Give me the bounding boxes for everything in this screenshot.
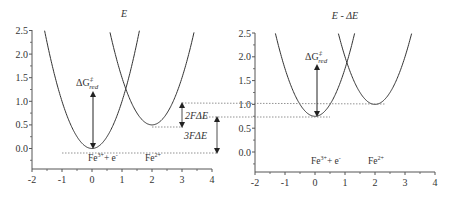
y-tick-label: 2.5 [239, 28, 252, 39]
y-tick-label: 1.5 [16, 72, 29, 83]
species-labels: Fe3++ e-Fe2+ [311, 155, 385, 166]
panel-e: E 0.00.51.01.52.02.5-2-101234 Fe3++ e-Fe… [16, 8, 215, 185]
parabola-curve [338, 34, 411, 105]
activation-energy-label-right: ΔG‡red [305, 49, 328, 65]
x-tick-label: 3 [403, 177, 408, 188]
x-tick-label: 4 [210, 174, 215, 185]
y-tick-label: 0.0 [16, 143, 29, 154]
panel-title: E - ΔE [331, 10, 358, 21]
y-tick-label: 2.0 [16, 49, 29, 60]
parabola-curve [110, 32, 194, 125]
x-tick-label: 0 [313, 177, 318, 188]
x-tick-label: 3 [180, 174, 185, 185]
panel-title: E [120, 8, 127, 19]
level-1.0-dotted-line [182, 103, 386, 104]
y-tick-label: 1.5 [239, 75, 252, 86]
three-f-delta-e-label: 3FΔE [183, 130, 207, 141]
parabola-curves [275, 33, 411, 116]
x-tick-label: -2 [28, 174, 36, 185]
parabola-curves [45, 31, 194, 149]
x-tick-label: -1 [58, 174, 66, 185]
y-tick-label: 1.0 [239, 99, 252, 110]
y-tick-label: 0.0 [239, 147, 252, 158]
x-tick-label: -1 [281, 177, 289, 188]
species-label: Fe2+ [368, 155, 385, 166]
y-tick-label: 2.0 [239, 51, 252, 62]
reference-lines [62, 103, 386, 153]
x-tick-label: 1 [120, 174, 125, 185]
x-tick-label: -2 [251, 177, 259, 188]
two-f-delta-e-label: 2FΔE [185, 110, 208, 121]
panel-e-minus-delta-e: E - ΔE 0.00.51.01.52.02.5-2-101234 Fe3++… [239, 10, 438, 188]
x-tick-label: 1 [343, 177, 348, 188]
x-tick-label: 4 [433, 177, 438, 188]
y-tick-label: 2.5 [16, 25, 29, 36]
x-tick-label: 0 [90, 174, 95, 185]
x-tick-label: 2 [150, 174, 155, 185]
activation-energy-label-left: ΔG‡red [76, 75, 99, 91]
y-tick-label: 0.5 [16, 119, 29, 130]
y-tick-label: 0.5 [239, 123, 252, 134]
species-label: Fe3++ e- [311, 155, 341, 166]
energy-diagram-figure: E 0.00.51.01.52.02.5-2-101234 Fe3++ e-Fe… [0, 0, 451, 197]
x-tick-label: 2 [373, 177, 378, 188]
y-tick-label: 1.0 [16, 96, 29, 107]
